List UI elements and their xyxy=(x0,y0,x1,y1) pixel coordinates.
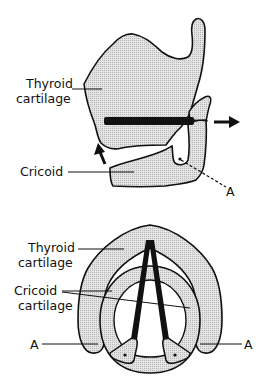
label-cricoid-superior-2: cartilage xyxy=(18,298,73,313)
label-cricoid-superior-1: Cricoid xyxy=(14,283,57,298)
rotation-up-arrow xyxy=(94,143,105,164)
label-cricoid-lateral: Cricoid xyxy=(20,164,63,179)
label-thyroid-superior-1: Thyroid xyxy=(27,240,75,255)
label-a-lateral: A xyxy=(226,184,235,199)
label-thyroid-lateral-1: Thyroid xyxy=(25,76,73,91)
larynx-diagram: A Thyroid cartilage Cricoid Thyroid cart… xyxy=(0,0,271,386)
superior-view: Thyroid cartilage Cricoid cartilage A A xyxy=(14,225,253,373)
vocal-fold-bar xyxy=(104,117,194,125)
pull-right-arrow xyxy=(214,116,240,128)
label-thyroid-superior-2: cartilage xyxy=(18,255,73,270)
label-a-right: A xyxy=(244,337,253,352)
thyroid-cartilage-lateral xyxy=(84,19,205,149)
label-a-left: A xyxy=(30,337,39,352)
label-thyroid-lateral-2: cartilage xyxy=(16,91,71,106)
lateral-view: A Thyroid cartilage Cricoid xyxy=(16,19,240,199)
